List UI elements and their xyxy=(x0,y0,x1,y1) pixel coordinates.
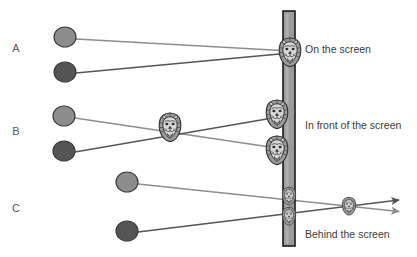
row-label-a: A xyxy=(12,42,20,54)
row-label-b: B xyxy=(12,125,20,137)
viewpoint-b-left-eye xyxy=(53,106,75,126)
viewpoint-group xyxy=(53,27,138,241)
lion-icon-b-fused-in-front xyxy=(159,113,181,142)
caption-behind-the-screen: Behind the screen xyxy=(305,228,390,240)
lion-icon-b-screen-top xyxy=(266,100,288,129)
viewpoint-c-left-eye xyxy=(116,172,138,192)
sight-line-a-light xyxy=(76,39,290,51)
row-label-c: C xyxy=(12,202,20,214)
diagram-canvas: A B C xyxy=(0,0,417,257)
viewpoint-a-right-eye xyxy=(54,62,76,82)
caption-on-the-screen: On the screen xyxy=(305,43,371,55)
sight-line-c-light xyxy=(138,184,399,212)
lion-icon-c-screen-top xyxy=(282,187,295,205)
sight-line-a-dark xyxy=(76,53,290,73)
lion-icon-c-screen-bottom xyxy=(282,207,295,225)
row-label-group: A B C xyxy=(12,42,20,214)
stereo-depth-diagram: A B C xyxy=(0,0,417,257)
sight-line-b-dark xyxy=(75,115,290,152)
lion-icon-c-fused-behind xyxy=(342,197,355,215)
viewpoint-c-right-eye xyxy=(116,221,138,241)
viewpoint-a-left-eye xyxy=(54,27,76,47)
viewpoint-b-right-eye xyxy=(53,141,75,161)
caption-in-front-of-the-screen: In front of the screen xyxy=(305,119,401,131)
lion-icon-b-screen-bottom xyxy=(266,136,288,165)
lion-icon-a-fused xyxy=(279,38,301,67)
